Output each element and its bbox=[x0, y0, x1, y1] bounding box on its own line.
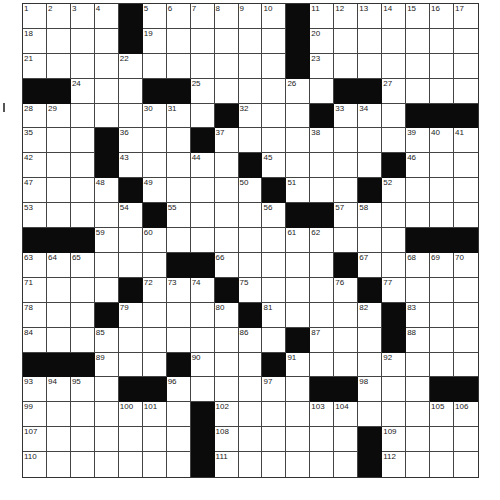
grid-cell[interactable] bbox=[310, 79, 334, 104]
grid-cell[interactable] bbox=[310, 427, 334, 452]
grid-cell[interactable]: 4 bbox=[95, 4, 119, 29]
grid-cell[interactable] bbox=[71, 104, 95, 129]
grid-cell[interactable] bbox=[262, 79, 286, 104]
grid-cell[interactable] bbox=[215, 153, 239, 178]
grid-cell[interactable]: 76 bbox=[334, 278, 358, 303]
grid-cell[interactable] bbox=[262, 228, 286, 253]
grid-cell[interactable] bbox=[286, 278, 310, 303]
grid-cell[interactable] bbox=[215, 79, 239, 104]
grid-cell[interactable] bbox=[430, 54, 454, 79]
grid-cell[interactable]: 39 bbox=[406, 128, 430, 153]
grid-cell[interactable] bbox=[430, 153, 454, 178]
grid-cell[interactable] bbox=[95, 104, 119, 129]
grid-cell[interactable] bbox=[143, 253, 167, 278]
grid-cell[interactable]: 42 bbox=[23, 153, 47, 178]
grid-cell[interactable]: 72 bbox=[143, 278, 167, 303]
grid-cell[interactable]: 16 bbox=[430, 4, 454, 29]
grid-cell[interactable]: 50 bbox=[239, 178, 263, 203]
grid-cell[interactable] bbox=[334, 178, 358, 203]
grid-cell[interactable] bbox=[95, 452, 119, 477]
grid-cell[interactable] bbox=[406, 178, 430, 203]
grid-cell[interactable] bbox=[454, 427, 478, 452]
grid-cell[interactable]: 82 bbox=[358, 303, 382, 328]
grid-cell[interactable]: 12 bbox=[334, 4, 358, 29]
grid-cell[interactable] bbox=[286, 253, 310, 278]
grid-cell[interactable] bbox=[239, 427, 263, 452]
grid-cell[interactable] bbox=[286, 303, 310, 328]
grid-cell[interactable] bbox=[95, 54, 119, 79]
grid-cell[interactable]: 33 bbox=[334, 104, 358, 129]
grid-cell[interactable]: 67 bbox=[358, 253, 382, 278]
grid-cell[interactable] bbox=[71, 278, 95, 303]
grid-cell[interactable] bbox=[215, 377, 239, 402]
grid-cell[interactable] bbox=[239, 203, 263, 228]
grid-cell[interactable]: 3 bbox=[71, 4, 95, 29]
grid-cell[interactable] bbox=[310, 153, 334, 178]
grid-cell[interactable] bbox=[47, 278, 71, 303]
grid-cell[interactable]: 81 bbox=[262, 303, 286, 328]
grid-cell[interactable] bbox=[71, 452, 95, 477]
grid-cell[interactable] bbox=[239, 54, 263, 79]
grid-cell[interactable] bbox=[143, 328, 167, 353]
grid-cell[interactable]: 61 bbox=[286, 228, 310, 253]
grid-cell[interactable] bbox=[191, 228, 215, 253]
grid-cell[interactable]: 21 bbox=[23, 54, 47, 79]
grid-cell[interactable] bbox=[286, 153, 310, 178]
grid-cell[interactable] bbox=[334, 228, 358, 253]
grid-cell[interactable]: 109 bbox=[382, 427, 406, 452]
grid-cell[interactable] bbox=[215, 178, 239, 203]
grid-cell[interactable]: 62 bbox=[310, 228, 334, 253]
grid-cell[interactable] bbox=[95, 427, 119, 452]
grid-cell[interactable] bbox=[406, 203, 430, 228]
grid-cell[interactable]: 69 bbox=[430, 253, 454, 278]
grid-cell[interactable] bbox=[143, 153, 167, 178]
grid-cell[interactable] bbox=[47, 303, 71, 328]
grid-cell[interactable] bbox=[119, 79, 143, 104]
grid-cell[interactable] bbox=[406, 377, 430, 402]
grid-cell[interactable] bbox=[95, 29, 119, 54]
grid-cell[interactable]: 103 bbox=[310, 402, 334, 427]
grid-cell[interactable]: 23 bbox=[310, 54, 334, 79]
grid-cell[interactable] bbox=[47, 153, 71, 178]
grid-cell[interactable] bbox=[167, 402, 191, 427]
grid-cell[interactable] bbox=[119, 228, 143, 253]
grid-cell[interactable] bbox=[382, 253, 406, 278]
grid-cell[interactable]: 85 bbox=[95, 328, 119, 353]
grid-cell[interactable] bbox=[454, 278, 478, 303]
grid-cell[interactable] bbox=[406, 427, 430, 452]
grid-cell[interactable]: 15 bbox=[406, 4, 430, 29]
grid-cell[interactable] bbox=[286, 128, 310, 153]
grid-cell[interactable] bbox=[167, 54, 191, 79]
grid-cell[interactable] bbox=[262, 278, 286, 303]
grid-cell[interactable] bbox=[95, 253, 119, 278]
grid-cell[interactable] bbox=[382, 377, 406, 402]
grid-cell[interactable]: 88 bbox=[406, 328, 430, 353]
grid-cell[interactable] bbox=[143, 54, 167, 79]
grid-cell[interactable]: 22 bbox=[119, 54, 143, 79]
grid-cell[interactable] bbox=[71, 402, 95, 427]
grid-cell[interactable] bbox=[286, 427, 310, 452]
grid-cell[interactable] bbox=[382, 104, 406, 129]
grid-cell[interactable]: 13 bbox=[358, 4, 382, 29]
grid-cell[interactable] bbox=[334, 29, 358, 54]
grid-cell[interactable]: 56 bbox=[262, 203, 286, 228]
grid-cell[interactable] bbox=[71, 153, 95, 178]
grid-cell[interactable] bbox=[286, 452, 310, 477]
grid-cell[interactable] bbox=[143, 427, 167, 452]
grid-cell[interactable] bbox=[143, 303, 167, 328]
grid-cell[interactable] bbox=[119, 104, 143, 129]
grid-cell[interactable]: 96 bbox=[167, 377, 191, 402]
grid-cell[interactable] bbox=[215, 328, 239, 353]
grid-cell[interactable] bbox=[47, 29, 71, 54]
grid-cell[interactable]: 27 bbox=[382, 79, 406, 104]
grid-cell[interactable]: 19 bbox=[143, 29, 167, 54]
grid-cell[interactable]: 43 bbox=[119, 153, 143, 178]
grid-cell[interactable]: 68 bbox=[406, 253, 430, 278]
grid-cell[interactable] bbox=[239, 353, 263, 378]
grid-cell[interactable] bbox=[286, 377, 310, 402]
grid-cell[interactable] bbox=[430, 328, 454, 353]
grid-cell[interactable]: 92 bbox=[382, 353, 406, 378]
grid-cell[interactable] bbox=[454, 353, 478, 378]
grid-cell[interactable]: 20 bbox=[310, 29, 334, 54]
grid-cell[interactable]: 71 bbox=[23, 278, 47, 303]
